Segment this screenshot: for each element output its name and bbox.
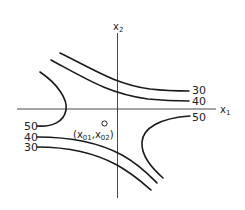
x1-axis-label: x1	[220, 104, 230, 117]
contour-right-50	[142, 116, 190, 178]
contour-upper-30	[60, 53, 189, 91]
contour-lower-30	[37, 147, 151, 190]
contour-left-50	[37, 72, 66, 126]
contour-label-upper-40: 40	[192, 95, 206, 108]
contour-lower-40	[37, 137, 157, 183]
contour-diagram: x2 x1 30 40 50 50 40 30 (x01,x02)	[0, 0, 245, 210]
contour-label-right-50: 50	[192, 111, 206, 124]
contour-upper-40	[51, 60, 189, 101]
contour-label-lower-30: 30	[24, 141, 38, 154]
x2-axis-label: x2	[113, 21, 123, 34]
saddle-point-marker	[102, 121, 107, 126]
